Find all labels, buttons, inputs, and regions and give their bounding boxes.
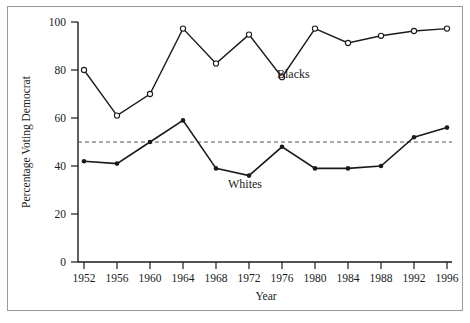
x-tick-label: 1968	[205, 272, 228, 284]
series-markers-blacks	[81, 26, 449, 118]
x-tick-label: 1972	[238, 272, 261, 284]
y-tick-label: 60	[55, 112, 67, 124]
figure-container: 0 20 40 60 80 100 1952 1956 1960 196	[0, 0, 470, 323]
x-tick-label: 1996	[436, 272, 459, 284]
y-axis-tick-labels: 0 20 40 60 80 100	[49, 16, 67, 268]
y-axis-ticks	[71, 22, 78, 262]
y-tick-label: 80	[55, 64, 67, 76]
x-axis-title: Year	[255, 290, 276, 302]
y-tick-label: 20	[55, 208, 67, 220]
y-tick-label: 100	[49, 16, 67, 28]
x-axis-tick-labels: 1952 1956 1960 1964 1968 1972 1976 1980 …	[73, 272, 459, 284]
series-line-whites	[84, 120, 447, 175]
x-axis-ticks	[84, 262, 447, 269]
series-label-whites: Whites	[228, 177, 262, 191]
x-tick-label: 1964	[172, 272, 195, 284]
x-tick-label: 1992	[403, 272, 426, 284]
series-label-blacks: Blacks	[277, 67, 310, 81]
y-axis-title: Percentage Voting Democrat	[20, 75, 33, 208]
series-markers-whites	[82, 118, 450, 178]
y-tick-label: 40	[55, 160, 67, 172]
x-tick-label: 1960	[139, 272, 162, 284]
x-tick-label: 1980	[304, 272, 327, 284]
series-line-blacks	[84, 29, 447, 116]
x-tick-label: 1956	[106, 272, 129, 284]
x-tick-label: 1988	[370, 272, 393, 284]
chart-plot: 0 20 40 60 80 100 1952 1956 1960 196	[0, 0, 470, 323]
x-tick-label: 1984	[337, 272, 360, 284]
y-tick-label: 0	[60, 256, 66, 268]
x-tick-label: 1952	[73, 272, 96, 284]
x-tick-label: 1976	[271, 272, 294, 284]
